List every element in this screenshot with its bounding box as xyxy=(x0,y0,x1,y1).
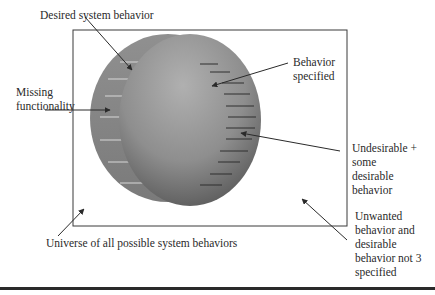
unwanted-label-line2: behavior and xyxy=(355,224,415,238)
desired-label: Desired system behavior xyxy=(40,9,154,23)
unwanted-label-line1: Unwanted xyxy=(355,210,402,224)
specified-behavior-circle xyxy=(119,34,261,206)
specified-label-line1: Behavior xyxy=(293,56,335,70)
universe-label: Universe of all possible system behavior… xyxy=(46,237,237,251)
universe-arrow xyxy=(58,209,84,236)
undesirable-label-line4: behavior xyxy=(352,184,392,198)
undesirable-label-line2: some xyxy=(352,156,376,170)
bottom-rule xyxy=(0,287,435,290)
undesirable-label-line1: Undesirable + xyxy=(352,142,417,156)
unwanted-label-line3: desirable xyxy=(355,238,397,252)
unwanted-arrow xyxy=(302,199,347,240)
unwanted-label-line4: behavior not 3 xyxy=(355,252,421,266)
specified-label-line2: specified xyxy=(293,70,335,84)
missing-label-line1: Missing xyxy=(16,86,53,100)
desired-arrow xyxy=(85,17,132,70)
unwanted-label-line5: specified xyxy=(355,266,397,280)
missing-label-line2: functionality xyxy=(16,100,75,114)
undesirable-label-line3: desirable xyxy=(352,170,394,184)
